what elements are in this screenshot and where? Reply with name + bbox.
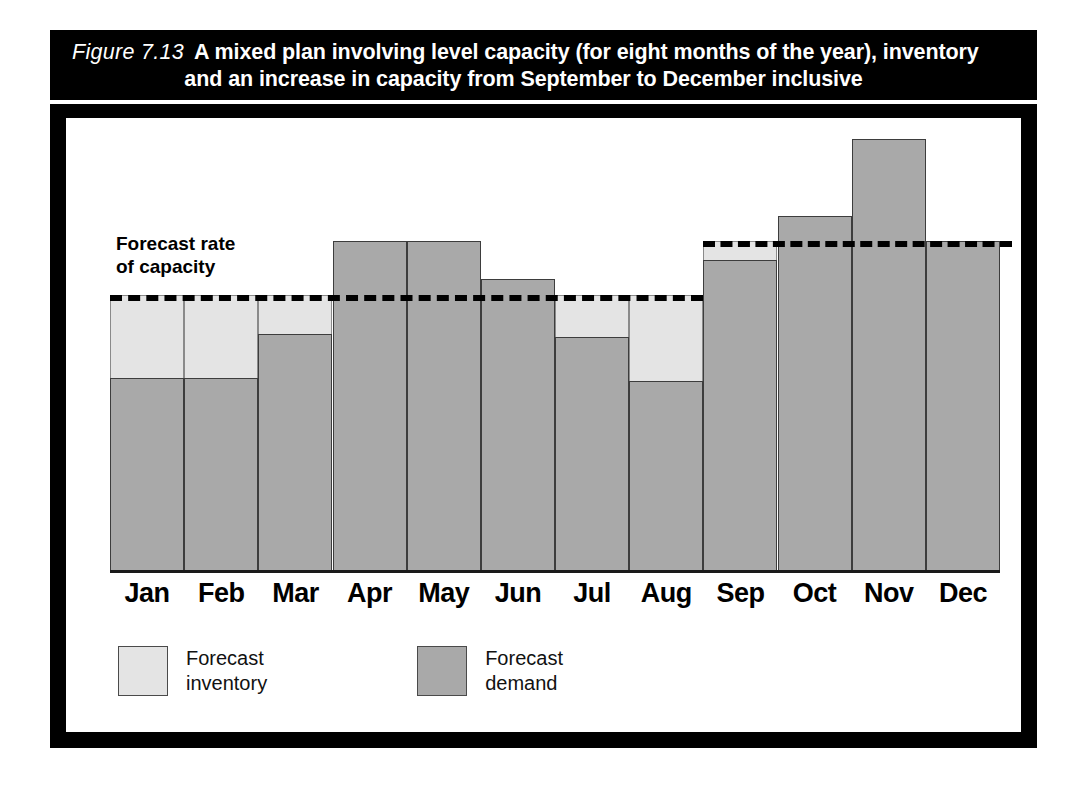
bar-column	[110, 139, 184, 570]
bar-segment-inventory	[555, 295, 629, 336]
bar-column	[184, 139, 258, 570]
bar-column	[481, 139, 555, 570]
legend-label-demand: Forecast demand	[485, 646, 563, 696]
x-axis-label-sep: Sep	[703, 576, 777, 610]
bar-segment-demand	[852, 139, 926, 570]
bar-column	[703, 139, 777, 570]
bar-segment-demand	[110, 378, 184, 570]
bar-column	[926, 139, 1000, 570]
bar-column	[629, 139, 703, 570]
bar-segment-demand	[555, 337, 629, 570]
legend-swatch-demand	[417, 646, 467, 696]
x-axis-label-jul: Jul	[555, 576, 629, 610]
chart-canvas: Forecast rate of capacity JanFebMarAprMa…	[66, 118, 1021, 732]
bar-segment-inventory	[629, 295, 703, 380]
chart-legend: Forecast inventoryForecast demand	[118, 646, 563, 696]
figure-title-line-1: Figure 7.13A mixed plan involving level …	[64, 39, 1023, 66]
bar-column	[778, 139, 852, 570]
bar-segment-demand	[407, 241, 481, 570]
bar-segment-demand	[926, 241, 1000, 570]
bar-segment-demand	[778, 216, 852, 570]
legend-swatch-inventory	[118, 646, 168, 696]
axis-baseline	[110, 570, 1000, 573]
bar-segment-demand	[184, 378, 258, 570]
x-axis-label-oct: Oct	[778, 576, 852, 610]
capacity-line-increased-capacity-sep-dec	[703, 241, 1012, 247]
legend-item: Forecast inventory	[118, 646, 267, 696]
bar-segment-demand	[258, 334, 332, 570]
x-axis-label-jun: Jun	[481, 576, 555, 610]
bar-column	[258, 139, 332, 570]
figure-title-text-1: A mixed plan involving level capacity (f…	[194, 40, 979, 64]
figure-container: Figure 7.13A mixed plan involving level …	[0, 0, 1091, 799]
bar-segment-demand	[629, 381, 703, 570]
chart-frame: Forecast rate of capacity JanFebMarAprMa…	[50, 104, 1037, 748]
capacity-line-level-capacity-jan-aug	[110, 295, 703, 301]
bar-column	[333, 139, 407, 570]
x-axis-label-feb: Feb	[184, 576, 258, 610]
bar-column	[852, 139, 926, 570]
bar-column	[407, 139, 481, 570]
x-axis-label-may: May	[407, 576, 481, 610]
plot-area	[110, 139, 1000, 570]
bar-segment-demand	[333, 241, 407, 570]
bar-segment-inventory	[110, 295, 184, 377]
bar-segment-inventory	[184, 295, 258, 377]
bar-segment-demand	[481, 279, 555, 570]
x-axis-label-mar: Mar	[258, 576, 332, 610]
bar-segment-demand	[703, 260, 777, 570]
legend-item: Forecast demand	[417, 646, 563, 696]
legend-label-inventory: Forecast inventory	[186, 646, 267, 696]
x-axis-label-jan: Jan	[110, 576, 184, 610]
x-axis-label-aug: Aug	[629, 576, 703, 610]
x-axis-label-nov: Nov	[852, 576, 926, 610]
x-axis-label-apr: Apr	[333, 576, 407, 610]
figure-title-line-2: and an increase in capacity from Septemb…	[64, 66, 1023, 93]
figure-number: Figure 7.13	[72, 40, 184, 64]
bar-column	[555, 139, 629, 570]
figure-title-bar: Figure 7.13A mixed plan involving level …	[50, 30, 1037, 100]
x-axis-labels: JanFebMarAprMayJunJulAugSepOctNovDec	[110, 576, 1000, 616]
x-axis-label-dec: Dec	[926, 576, 1000, 610]
